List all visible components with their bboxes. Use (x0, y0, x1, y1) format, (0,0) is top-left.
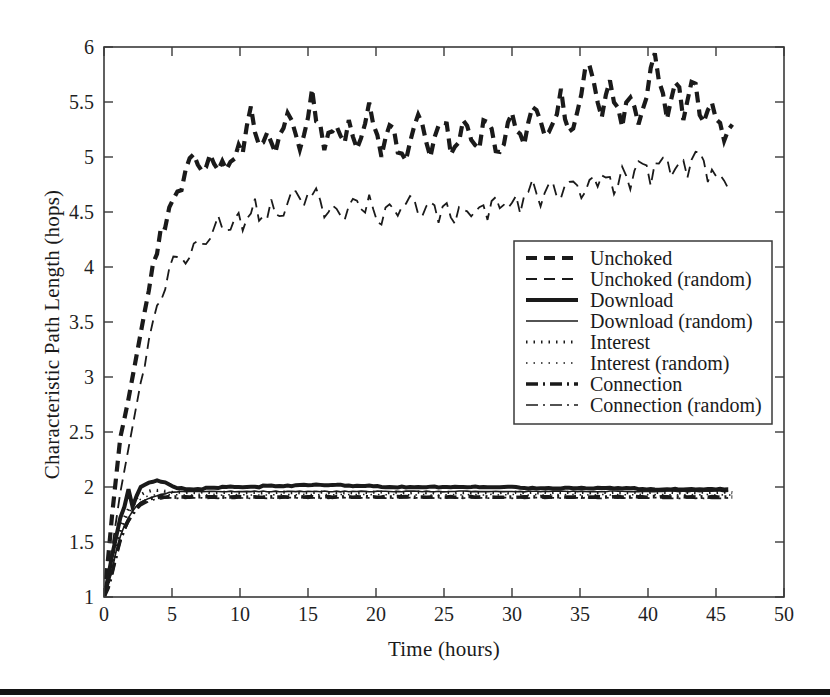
legend-label-8: Connection (random) (590, 394, 762, 417)
legend-box: UnchokedUnchoked (random)DownloadDownloa… (514, 241, 772, 424)
x-tick-label: 50 (774, 603, 794, 626)
y-tick-label: 1 (40, 586, 94, 609)
page-edge-bar (0, 689, 830, 695)
x-axis-label: Time (hours) (104, 637, 784, 662)
y-tick-label: 2.5 (40, 421, 94, 444)
y-tick-label: 4.5 (40, 201, 94, 224)
x-tick-label: 40 (638, 603, 658, 626)
y-tick-label: 1.5 (40, 531, 94, 554)
legend-label-7: Connection (590, 373, 682, 395)
x-tick-label: 35 (570, 603, 590, 626)
legend-label-3: Download (590, 289, 673, 311)
characteristic-path-length-plot: UnchokedUnchoked (random)DownloadDownloa… (0, 0, 830, 697)
legend-label-1: Unchoked (590, 247, 672, 269)
x-tick-label: 10 (230, 603, 250, 626)
legend-label-2: Unchoked (random) (590, 268, 752, 291)
x-tick-label: 15 (298, 603, 318, 626)
x-tick-label: 25 (434, 603, 454, 626)
chart-figure: UnchokedUnchoked (random)DownloadDownloa… (0, 0, 830, 697)
y-tick-label: 6 (40, 36, 94, 59)
y-axis-label: Characteristic Path Length (hops) (40, 135, 65, 535)
legend-label-5: Interest (590, 331, 650, 353)
x-tick-label: 30 (502, 603, 522, 626)
y-tick-label: 2 (40, 476, 94, 499)
y-tick-label: 3 (40, 366, 94, 389)
x-tick-label: 20 (366, 603, 386, 626)
y-tick-label: 5.5 (40, 91, 94, 114)
y-tick-label: 4 (40, 256, 94, 279)
y-tick-label: 5 (40, 146, 94, 169)
x-tick-label: 0 (99, 603, 109, 626)
legend-label-4: Download (random) (590, 310, 753, 333)
x-tick-label: 45 (706, 603, 726, 626)
y-tick-label: 3.5 (40, 311, 94, 334)
legend-label-6: Interest (random) (590, 352, 729, 375)
x-tick-label: 5 (167, 603, 177, 626)
